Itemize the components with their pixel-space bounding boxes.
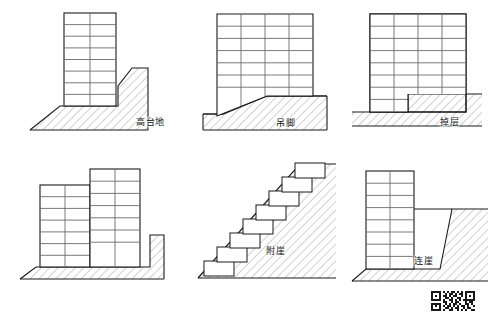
panel-diaoceng: 掉层	[348, 8, 493, 138]
panel-fuya: 附崖	[190, 160, 345, 290]
panel-6-label: 连崖	[414, 257, 433, 266]
panel-2-drawing	[195, 8, 340, 138]
panel-5-drawing	[190, 160, 345, 290]
panel-diaojiao: 吊脚	[195, 8, 340, 138]
panel-3-label: 掉层	[440, 118, 459, 127]
panel-2-label: 吊脚	[276, 119, 295, 128]
panel-4-drawing	[18, 163, 183, 291]
panel-6-drawing	[348, 165, 498, 293]
panel-5-label: 附崖	[266, 247, 285, 256]
panel-cuoceng: 错层	[18, 163, 183, 291]
panel-lianya: 连崖	[348, 165, 498, 293]
qr-code	[431, 291, 475, 311]
panel-3-drawing	[348, 8, 493, 138]
building-block	[366, 171, 414, 269]
figure-canvas: 高台地	[0, 0, 500, 314]
building-block-upper	[90, 169, 140, 267]
building-block	[64, 13, 116, 106]
panel-1-label: 高台地	[136, 118, 165, 127]
panel-gaotaidi: 高台地	[20, 8, 190, 138]
qr-code-glyph	[431, 291, 475, 311]
building-block-lower	[40, 185, 90, 267]
